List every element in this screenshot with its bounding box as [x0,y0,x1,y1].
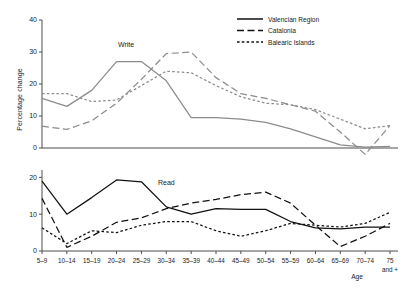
y-tick-label: 0 [33,247,37,254]
x-tick-label: 40–44 [207,257,225,264]
x-tick-label: 35–39 [182,257,200,264]
legend: Valencian RegionCataloniaBalearic Island… [237,16,320,46]
panel-annotation-read: Read [158,179,175,186]
series-line-catalonia [42,192,390,247]
y-tick-label: 20 [29,80,37,87]
y-tick-label: 10 [29,211,37,218]
x-axis-ticks: 5–910–1415–1920–2425–2930–3435–3940–4445… [37,251,399,273]
x-tick-label: 65–69 [332,257,350,264]
x-tick-label: 45–49 [232,257,250,264]
legend-label-balearic-islands: Balearic Islands [268,39,315,46]
panel-read: 01020Read [29,170,398,254]
x-tick-label: 30–34 [158,257,176,264]
x-tick-label-secondline: and + [382,266,398,273]
series-line-valencian-region [42,62,390,147]
x-tick-label: 15–19 [83,257,101,264]
series-line-balearic-islands [42,212,390,243]
x-tick-label: 60–64 [307,257,325,264]
y-tick-label: 0 [33,144,37,151]
x-tick-label: 25–29 [133,257,151,264]
x-tick-label: 5–9 [37,257,48,264]
x-tick-label: 10–14 [58,257,76,264]
series-line-valencian-region [42,180,390,229]
y-tick-label: 30 [29,48,37,55]
chart-figure: Percentage change 010203040Write01020Rea… [0,0,409,297]
x-tick-label: 70–74 [356,257,374,264]
y-tick-label: 10 [29,112,37,119]
x-tick-label: 20–24 [108,257,126,264]
legend-label-valencian-region: Valencian Region [268,16,320,24]
x-axis-label: Age [351,273,363,281]
series-line-balearic-islands [42,71,390,129]
y-tick-label: 40 [29,16,37,23]
x-tick-label: 50–54 [257,257,275,264]
legend-label-catalonia: Catalonia [268,27,296,34]
y-axis-label: Percentage change [16,45,23,155]
x-tick-label: 55–59 [282,257,300,264]
y-tick-label: 20 [29,174,37,181]
panel-annotation-write: Write [118,41,134,48]
panel-write: 010203040Write [29,16,398,154]
series-line-catalonia [42,52,390,154]
x-tick-label: 75 [386,257,394,264]
chart-svg: 010203040Write01020Read5–910–1415–1920–2… [0,0,409,297]
